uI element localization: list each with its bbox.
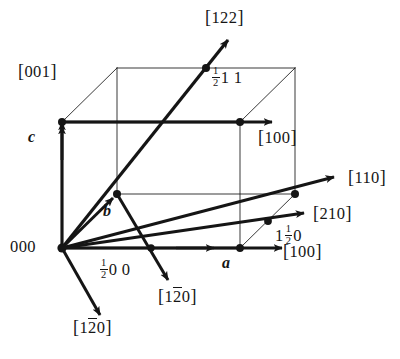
point-a: [236, 244, 244, 252]
cell-edges-thin: [62, 68, 295, 248]
point-1-half-0: [264, 217, 272, 225]
label-coord-half-0-0: 120 0: [99, 258, 130, 280]
point-ac: [236, 118, 244, 126]
lattice-point-markers: [57, 64, 299, 253]
unit-cell-drawing: [0, 0, 400, 359]
point-b: [113, 190, 121, 198]
label-coord-origin: 000: [10, 239, 36, 256]
crystal-direction-figure: [122] [001] c 121 1 [100] [110] [210] 11…: [0, 0, 400, 359]
label-direction-100-upper: [100]: [258, 128, 297, 147]
edge-abc-to-ac: [240, 68, 295, 122]
label-direction-12bar0-mid: [120]: [158, 286, 197, 306]
point-c: [58, 118, 66, 126]
label-direction-100-lower: [100]: [283, 242, 322, 261]
fraction-one-half: 12: [212, 66, 220, 88]
vector-12bar0-low: [62, 248, 100, 315]
point-000: [57, 243, 66, 252]
label-direction-122: [122]: [205, 8, 244, 27]
label-coord-half-1-1: 121 1: [211, 66, 242, 88]
cell-edges-bold: [62, 122, 240, 248]
point-half-0-0: [147, 244, 154, 251]
label-axis-a: a: [222, 255, 230, 271]
label-axis-c: c: [28, 129, 35, 145]
vector-122: [62, 40, 228, 248]
fraction-one-half: 12: [100, 258, 108, 280]
point-ab: [291, 190, 299, 198]
label-axis-b: b: [103, 203, 111, 219]
label-direction-12bar0-low: [120]: [73, 317, 112, 337]
overbar-digit: 2: [173, 287, 182, 306]
label-direction-210: [210]: [313, 204, 352, 223]
point-half-1-1: [202, 64, 210, 72]
edge-c-to-bc: [62, 68, 117, 122]
overbar-digit: 2: [88, 318, 97, 337]
label-direction-110: [110]: [348, 168, 386, 187]
label-direction-001: [001]: [18, 62, 57, 81]
